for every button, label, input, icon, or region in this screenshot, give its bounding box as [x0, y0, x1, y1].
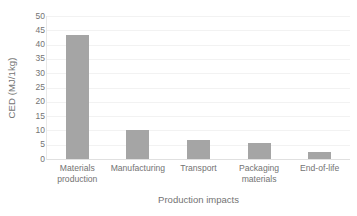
category-label-line: Manufacturing [109, 163, 168, 174]
bar-chart: CED (MJ/1kg) 50454035302520151050 Materi… [0, 0, 357, 216]
category-label-line: materials [230, 174, 289, 185]
bar[interactable] [187, 140, 210, 159]
y-axis-title: CED (MJ/1kg) [6, 33, 22, 143]
x-axis-category-labels: MaterialsproductionManufacturingTranspor… [47, 163, 350, 184]
bar-slot [229, 16, 290, 159]
x-axis-category-label: Transport [168, 163, 229, 184]
x-axis-title: Production impacts [47, 194, 350, 205]
plot-area [47, 16, 350, 159]
y-axis-tick-label: 35 [25, 54, 45, 63]
bar-slot [108, 16, 169, 159]
y-axis-tick-label: 15 [25, 112, 45, 121]
bar[interactable] [308, 152, 331, 159]
category-label-line: End-of-life [290, 163, 349, 174]
bar-series [47, 16, 350, 159]
bar[interactable] [66, 35, 89, 159]
category-label-line: production [48, 174, 107, 185]
bar-slot [47, 16, 108, 159]
category-label-line: Transport [169, 163, 228, 174]
y-axis-tick-label: 30 [25, 69, 45, 78]
bar-slot [289, 16, 350, 159]
bar[interactable] [126, 130, 149, 159]
y-axis-tick-label: 10 [25, 126, 45, 135]
bar[interactable] [248, 143, 271, 159]
y-axis-tick-label: 45 [25, 26, 45, 35]
y-axis-tick-label: 5 [25, 140, 45, 149]
y-axis-tick-label: 20 [25, 97, 45, 106]
x-axis-category-label: Packagingmaterials [229, 163, 290, 184]
x-axis-category-label: Manufacturing [108, 163, 169, 184]
y-axis-tick-label: 25 [25, 83, 45, 92]
x-axis-line [47, 159, 350, 160]
category-label-line: Materials [48, 163, 107, 174]
x-axis-category-label: End-of-life [289, 163, 350, 184]
y-axis-tick-label: 40 [25, 40, 45, 49]
bar-slot [168, 16, 229, 159]
category-label-line: Packaging [230, 163, 289, 174]
y-axis-tick-label: 50 [25, 12, 45, 21]
y-axis-tick-label: 0 [25, 155, 45, 164]
y-axis-tick-labels: 50454035302520151050 [25, 10, 45, 162]
x-axis-category-label: Materialsproduction [47, 163, 108, 184]
